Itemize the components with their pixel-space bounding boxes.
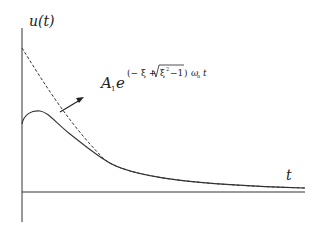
formula-sqrt-power: 2 — [166, 66, 169, 72]
formula-base: e — [116, 74, 125, 92]
response-diagram: u(t) t A 1 e (− ξ + ξ 2 −1 ) ω n t — [0, 0, 319, 232]
formula-time: t — [203, 68, 207, 78]
formula-exponent-open: (− ξ + — [127, 68, 156, 78]
formula-sqrt-content: ξ — [160, 68, 165, 78]
annotation-arrow — [60, 100, 80, 112]
x-axis-label: t — [286, 167, 292, 183]
response-curve — [22, 111, 305, 188]
formula-sqrt-tail: −1 — [170, 68, 183, 78]
y-axis-label: u(t) — [29, 13, 55, 29]
formula-exponent-close: ) — [184, 68, 188, 78]
formula-omega-subscript: n — [197, 73, 201, 79]
envelope-formula: A 1 e (− ξ + ξ 2 −1 ) ω n t — [99, 65, 207, 93]
formula-coefficient-subscript: 1 — [111, 85, 115, 93]
